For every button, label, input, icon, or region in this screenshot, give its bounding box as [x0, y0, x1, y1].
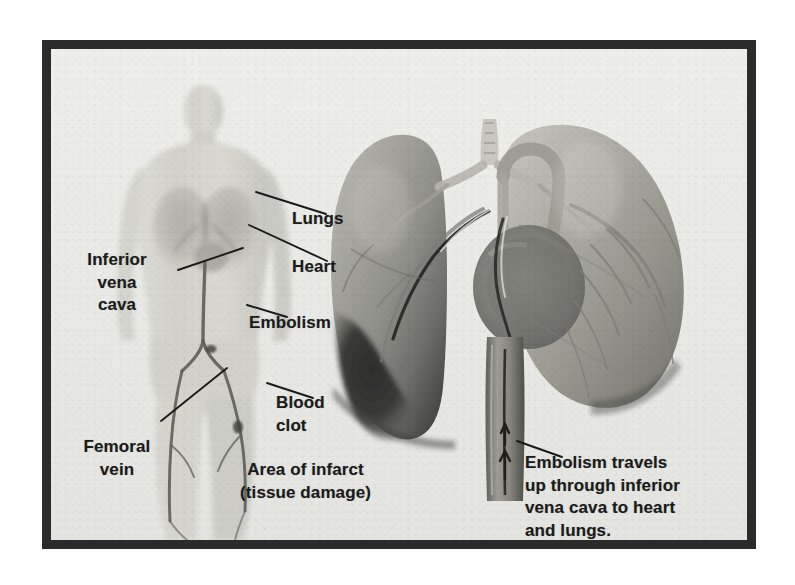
- picture-canvas: Lungs Heart Inferior vena cava Embolism …: [51, 49, 747, 540]
- label-embolism: Embolism: [249, 312, 331, 335]
- blood-clot-marker: [233, 421, 243, 434]
- label-embolism-travels: Embolism travels up through inferior ven…: [525, 452, 725, 540]
- label-heart: Heart: [292, 256, 336, 279]
- label-area-of-infarct: Area of infarct (tissue damage): [218, 459, 393, 504]
- label-blood-clot: Blood clot: [276, 392, 325, 437]
- picture-frame: Lungs Heart Inferior vena cava Embolism …: [42, 40, 756, 549]
- label-inferior-vena-cava: Inferior vena cava: [67, 249, 167, 317]
- label-femoral-vein: Femoral vein: [65, 436, 169, 481]
- inferior-vena-cava-trunk: [486, 337, 525, 501]
- illustration-root: Lungs Heart Inferior vena cava Embolism …: [0, 0, 795, 585]
- label-lungs: Lungs: [292, 208, 344, 231]
- embolism-marker: [206, 345, 217, 353]
